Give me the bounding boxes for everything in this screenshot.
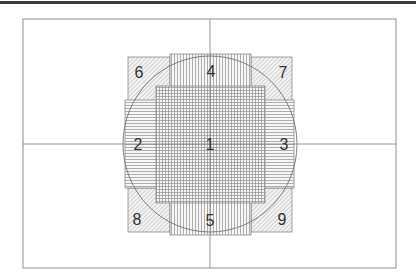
region-label-3: 3 [280, 136, 289, 153]
region-label-7: 7 [279, 64, 288, 81]
region-label-2: 2 [134, 136, 143, 153]
region-label-1: 1 [206, 136, 215, 153]
region-label-4: 4 [207, 63, 216, 80]
region-label-8: 8 [133, 211, 142, 228]
region-label-9: 9 [278, 211, 287, 228]
zone-diagram: 1 2 3 4 5 6 7 8 9 [0, 0, 416, 280]
region-label-5: 5 [206, 212, 215, 229]
region-label-6: 6 [135, 64, 144, 81]
